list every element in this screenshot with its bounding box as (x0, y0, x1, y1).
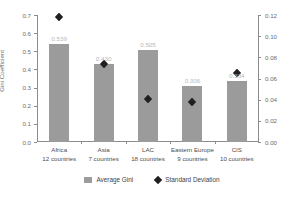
bar (182, 86, 202, 142)
y-tick-label-right: 0.10 (265, 33, 277, 40)
y-tick-right (258, 57, 261, 58)
y-tick-label-left: 0.6 (22, 30, 31, 37)
y-tick-left (34, 142, 37, 143)
bar-value-label: 0.306 (176, 77, 208, 84)
y-tick-left (34, 106, 37, 107)
bar (227, 81, 247, 142)
bar-value-label: 0.539 (43, 35, 75, 42)
legend-item-standard-deviation: Standard Deviation (155, 176, 219, 183)
chart-legend: Average Gini Standard Deviation (0, 176, 304, 183)
y-tick-right (258, 142, 261, 143)
y-tick-label-right: 0.04 (265, 96, 277, 103)
y-tick-label-right: 0.08 (265, 54, 277, 61)
x-tick (170, 141, 171, 144)
y-tick-left (34, 124, 37, 125)
x-tick (126, 141, 127, 144)
chart-title (0, 0, 304, 3)
y-tick-label-right: 0.00 (265, 139, 277, 146)
y-tick-label-left: 0.0 (22, 139, 31, 146)
y-tick-label-left: 0.2 (22, 102, 31, 109)
x-tick (81, 141, 82, 144)
y-tick-label-right: 0.02 (265, 117, 277, 124)
y-tick-left (34, 51, 37, 52)
chart-container: 0.00.10.20.30.40.50.60.7 0.000.020.040.0… (0, 0, 304, 202)
bar (94, 64, 114, 142)
y-tick-label-right: 0.12 (265, 12, 277, 19)
category-name: CIS (207, 146, 267, 155)
legend-label: Average Gini (96, 176, 133, 183)
legend-item-average-gini: Average Gini (84, 176, 133, 183)
y-tick-label-right: 0.06 (265, 75, 277, 82)
y-tick-label-left: 0.3 (22, 84, 31, 91)
y-tick-label-left: 0.7 (22, 12, 31, 19)
y-tick-left (34, 69, 37, 70)
bar-swatch-icon (84, 177, 92, 183)
legend-label: Standard Deviation (165, 176, 219, 183)
y-tick-left (34, 33, 37, 34)
y-tick-left (34, 15, 37, 16)
bar-value-label: 0.430 (88, 55, 120, 62)
bar (49, 44, 69, 142)
y-tick-label-left: 0.1 (22, 120, 31, 127)
bar-value-label: 0.505 (132, 41, 164, 48)
data-point-diamond (55, 13, 63, 21)
x-category-label: CIS10 countries (207, 146, 267, 163)
diamond-swatch-icon (154, 175, 162, 183)
y-tick-label-left: 0.5 (22, 48, 31, 55)
x-tick (215, 141, 216, 144)
y-tick-right (258, 15, 261, 16)
y-axis-left-line (37, 15, 38, 142)
y-tick-right (258, 100, 261, 101)
plot-area: 0.00.10.20.30.40.50.60.7 0.000.020.040.0… (37, 15, 259, 142)
y-tick-right (258, 121, 261, 122)
category-count: 10 countries (207, 155, 267, 164)
y-tick-left (34, 88, 37, 89)
y-tick-right (258, 36, 261, 37)
bar-value-label: 0.334 (221, 72, 253, 79)
y-tick-right (258, 79, 261, 80)
y-tick-label-left: 0.4 (22, 66, 31, 73)
y-axis-left-title: Gini Coefficient (0, 50, 5, 92)
